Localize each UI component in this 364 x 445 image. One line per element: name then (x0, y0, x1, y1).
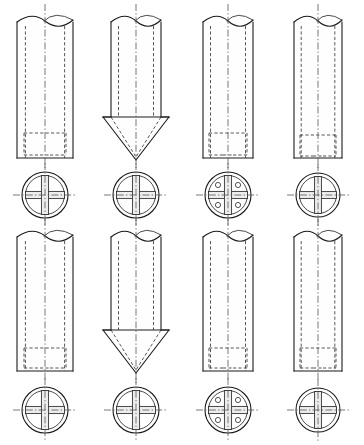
figure-7 (196, 219, 260, 442)
figure-3-cross-section-view (196, 163, 260, 227)
figure-5-elevation-view (17, 219, 73, 381)
figure-2-cross-section-view (104, 163, 168, 227)
figure-8-cross-section-view (287, 379, 349, 441)
break-line-back (44, 15, 73, 21)
figure-2 (103, 4, 169, 227)
figure-3 (196, 4, 260, 227)
section-hole-2 (235, 397, 240, 402)
figure-1 (13, 4, 77, 227)
break-line-back (135, 230, 161, 236)
break-line-back (44, 230, 73, 236)
section-hole-4 (235, 202, 240, 207)
figure-8-elevation-view (294, 219, 342, 381)
figure-8 (287, 219, 349, 441)
figure-1-elevation-view (17, 4, 73, 168)
figure-4 (287, 4, 349, 226)
section-hole-4 (235, 417, 240, 422)
figure-5 (13, 219, 77, 442)
figure-3-elevation-view (203, 4, 253, 168)
break-line-back (135, 15, 161, 21)
break-line-back (317, 230, 342, 236)
section-hole-3 (215, 417, 220, 422)
figure-4-cross-section-view (287, 164, 349, 226)
figure-7-elevation-view (203, 219, 253, 381)
break-line-back (317, 15, 342, 21)
figure-2-elevation-view (103, 4, 169, 170)
figure-7-cross-section-view (196, 378, 260, 442)
break-line-back (227, 230, 253, 236)
section-hole-2 (235, 182, 240, 187)
figure-1-cross-section-view (13, 163, 77, 227)
figure-6 (103, 219, 169, 442)
section-hole-1 (215, 182, 220, 187)
break-line-back (227, 15, 253, 21)
engineering-drawing-sheet (0, 0, 364, 445)
drawing-canvas (0, 0, 364, 445)
figure-5-cross-section-view (13, 378, 77, 442)
figure-6-elevation-view (103, 219, 169, 383)
figure-6-cross-section-view (104, 378, 168, 442)
section-hole-1 (215, 397, 220, 402)
section-hole-3 (215, 202, 220, 207)
figure-4-elevation-view (294, 4, 342, 168)
